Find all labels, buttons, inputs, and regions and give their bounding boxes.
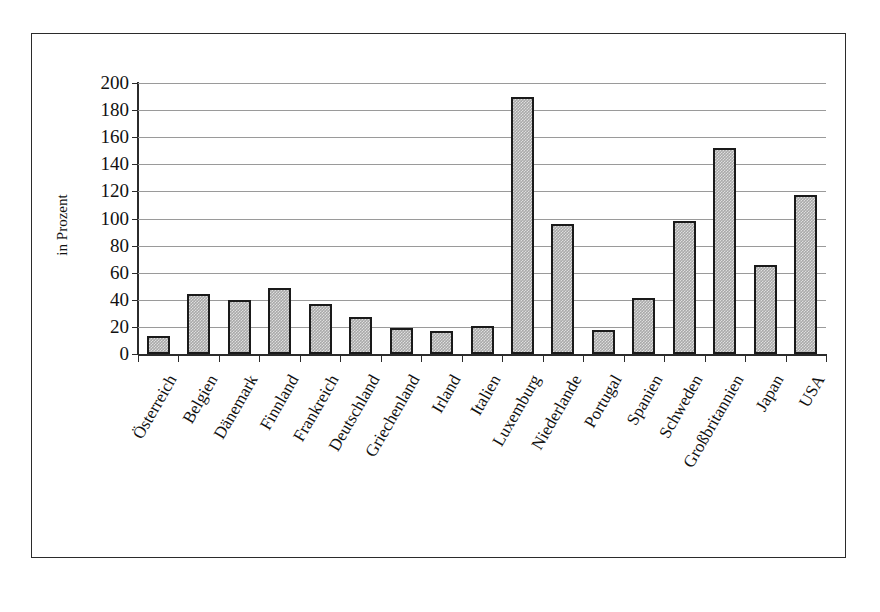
y-axis-tick bbox=[132, 273, 138, 274]
x-axis-category-label-text: Portugal bbox=[582, 372, 626, 430]
plot-area: 200180160140120100806040200 bbox=[138, 83, 826, 354]
x-axis-tick bbox=[138, 354, 139, 362]
gridline: 160 bbox=[138, 137, 826, 138]
y-tick-label: 20 bbox=[110, 317, 129, 336]
x-axis-category-label-text: Belgien bbox=[179, 372, 220, 426]
y-axis-tick bbox=[132, 137, 138, 138]
y-tick-label: 140 bbox=[101, 154, 130, 173]
y-tick-label: 0 bbox=[120, 344, 130, 363]
x-axis-category-label-text: USA bbox=[796, 372, 828, 410]
bar bbox=[147, 336, 170, 354]
x-axis-category-label-text: Japan bbox=[753, 372, 787, 414]
y-axis-title: in Prozent bbox=[54, 194, 71, 255]
y-axis-tick bbox=[132, 191, 138, 192]
x-axis-category-label-text: Italien bbox=[467, 372, 503, 418]
y-tick-label: 120 bbox=[101, 182, 130, 201]
gridline: 180 bbox=[138, 110, 826, 111]
y-tick-label: 100 bbox=[101, 209, 130, 228]
y-axis-tick bbox=[132, 83, 138, 84]
scan-caption bbox=[34, 586, 734, 600]
bar bbox=[794, 195, 817, 354]
y-tick-label: 40 bbox=[110, 290, 129, 309]
y-tick-label: 200 bbox=[101, 73, 130, 92]
bar-chart: in Prozent 200180160140120100806040200 Ö… bbox=[0, 0, 880, 612]
x-axis-baseline: 0 bbox=[138, 354, 826, 356]
x-axis-category-label-text: Österreich bbox=[130, 372, 180, 442]
y-axis-tick bbox=[132, 164, 138, 165]
y-tick-label: 180 bbox=[101, 100, 130, 119]
y-axis-tick bbox=[132, 219, 138, 220]
y-axis-tick bbox=[132, 300, 138, 301]
bar bbox=[511, 97, 534, 354]
y-tick-label: 160 bbox=[101, 127, 130, 146]
x-axis-category-label-text: Spanien bbox=[623, 372, 665, 428]
y-tick-label: 60 bbox=[110, 263, 129, 282]
gridline: 200 bbox=[138, 83, 826, 84]
y-tick-label: 80 bbox=[110, 236, 129, 255]
y-axis-tick bbox=[132, 246, 138, 247]
x-axis-category-label-text: Irland bbox=[428, 372, 463, 416]
y-axis-tick bbox=[132, 327, 138, 328]
y-axis-tick bbox=[132, 110, 138, 111]
